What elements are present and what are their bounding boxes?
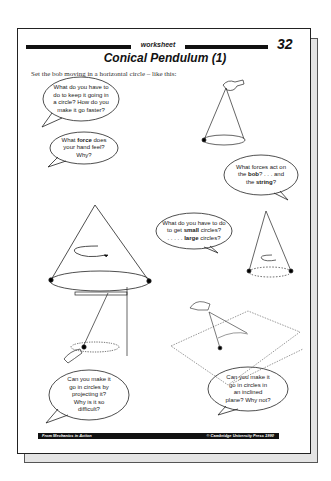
bubble-line: the bob? . . . and bbox=[236, 171, 286, 179]
worksheet-page: worksheet 32 Conical Pendulum (1) Set th… bbox=[17, 28, 311, 454]
footer-source: From Mechanics in Action bbox=[42, 433, 92, 439]
bubble-line: . . . . . large circles? bbox=[162, 235, 225, 243]
hand-held-cone bbox=[202, 80, 245, 145]
large-cone bbox=[49, 205, 151, 291]
bubble-line: go in circles in bbox=[225, 382, 270, 390]
bubble-line: make it go faster? bbox=[53, 107, 109, 115]
bubble-force-hand: What force does your hand feel? Why? bbox=[52, 133, 116, 163]
bubble-line: Can you make it bbox=[67, 376, 110, 384]
bubble-line: plane? Why not? bbox=[225, 397, 270, 405]
footer-copyright: © Cambridge University Press 1990 bbox=[207, 433, 274, 439]
bubble-line: projecting it? bbox=[67, 391, 110, 399]
bubble-line: What force does bbox=[61, 137, 106, 145]
bubble-inclined: Can you make it go in circles in an incl… bbox=[210, 368, 286, 410]
bubble-line: What forces act on bbox=[236, 164, 286, 172]
bubble-small-large: What do you have to do to get small circ… bbox=[157, 215, 231, 247]
bubble-line: Why? bbox=[61, 152, 106, 160]
bubble-line: to get small circles? bbox=[162, 227, 225, 235]
bubble-line: a circle? How do you bbox=[53, 99, 109, 107]
bubble-line: go in circles by bbox=[67, 384, 110, 392]
bubble-line: your hand feel? bbox=[61, 144, 106, 152]
bubble-keep-circle: What do you have to do to keep it going … bbox=[45, 78, 117, 120]
bubble-projecting: Can you make it go in circles by project… bbox=[51, 371, 127, 419]
small-cone bbox=[247, 211, 293, 277]
bubble-line: do to keep it going in bbox=[53, 92, 109, 100]
beam-pendulum bbox=[64, 287, 127, 363]
bubble-line: an inclined bbox=[225, 389, 270, 397]
bubble-line: What do you have to bbox=[53, 84, 109, 92]
bubble-line: the string? bbox=[236, 179, 286, 187]
bubble-line: What do you have to do bbox=[162, 220, 225, 228]
bubble-line: Why is it so bbox=[67, 399, 110, 407]
bubble-line: difficult? bbox=[67, 406, 110, 414]
bubble-forces-bob-string: What forces act on the bob? . . . and th… bbox=[226, 157, 296, 193]
bubble-line: Can you make it bbox=[225, 374, 270, 382]
